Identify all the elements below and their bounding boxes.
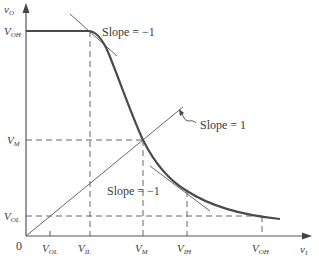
x-tick-vm: VM (135, 242, 149, 256)
unity-slope-line (26, 107, 183, 236)
x-tick-vil: VIL (78, 242, 91, 256)
axes (23, 3, 313, 240)
x-axis-arrow-icon (302, 233, 312, 240)
y-tick-voh: VOH (4, 25, 22, 39)
dashed-guides (26, 31, 262, 236)
x-tick-vol: VOL (42, 242, 58, 256)
pointer-arrowhead-icon (179, 109, 184, 116)
slope-label-bottom: Slope = −1 (107, 184, 160, 198)
x-tick-voh: VOH (252, 242, 270, 256)
y-tick-vm: VM (7, 134, 21, 148)
slope-label-unity: Slope = 1 (200, 118, 246, 132)
x-tick-vih: VIH (177, 242, 192, 256)
x-axis-label: vI (300, 243, 308, 257)
origin-label: 0 (16, 239, 22, 253)
y-axis-arrow-icon (23, 3, 30, 13)
vtc-diagram: Slope = −1 Slope = 1 Slope = −1 vO vI 0 … (0, 0, 319, 266)
pointer-arrow (181, 112, 196, 123)
y-tick-vol: VOL (4, 210, 20, 224)
slope-label-top: Slope = −1 (102, 25, 155, 39)
y-axis-label: vO (4, 3, 14, 17)
